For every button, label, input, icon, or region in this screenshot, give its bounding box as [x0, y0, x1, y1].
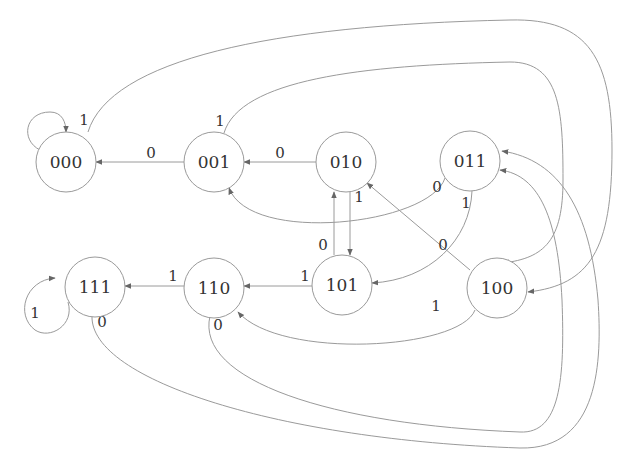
edge-100-010 [367, 183, 470, 270]
state-label: 100 [481, 278, 513, 298]
state-diagram: 0 1 0 1 0 1 0 1 0 1 0 1 0 1 0 1 000 001 … [0, 0, 620, 458]
state-label: 000 [50, 152, 82, 172]
state-label: 101 [326, 275, 358, 295]
label-011-001: 0 [432, 178, 442, 196]
state-label: 011 [454, 151, 486, 171]
state-010: 010 [316, 132, 376, 192]
state-000: 000 [36, 132, 96, 192]
label-000-100: 1 [79, 111, 89, 129]
label-100-010: 0 [438, 236, 448, 254]
label-011-101: 1 [461, 194, 471, 212]
state-label: 001 [198, 152, 230, 172]
label-101-010: 0 [318, 236, 328, 254]
state-111: 111 [65, 257, 125, 317]
edge-100-110 [238, 310, 475, 344]
state-110: 110 [184, 258, 244, 318]
state-001: 001 [184, 132, 244, 192]
state-label: 111 [79, 277, 111, 297]
state-101: 101 [312, 255, 372, 315]
label-001-000: 0 [146, 144, 156, 162]
label-010-001: 0 [275, 144, 285, 162]
label-101-110: 1 [300, 267, 310, 285]
state-label: 110 [198, 278, 230, 298]
label-110-111: 1 [168, 267, 178, 285]
label-110-011: 0 [213, 316, 223, 334]
label-100-110: 1 [431, 297, 441, 315]
state-011: 011 [440, 131, 500, 191]
state-label: 010 [330, 152, 362, 172]
diagram-svg: 0 1 0 1 0 1 0 1 0 1 0 1 0 1 0 1 000 001 … [0, 0, 620, 458]
label-111-111: 1 [30, 304, 40, 322]
edge-011-101 [372, 191, 472, 283]
state-100: 100 [467, 258, 527, 318]
label-001-100: 1 [215, 112, 225, 130]
